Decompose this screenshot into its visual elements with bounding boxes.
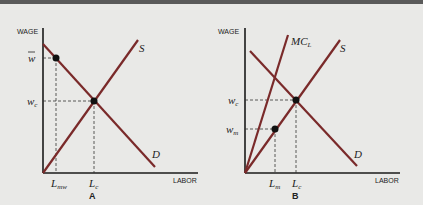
panel-b-competitive-point	[293, 97, 300, 104]
panel-b-y-axis-label: WAGE	[218, 28, 239, 35]
panel-a: WAGE LABOR S D w wc Lmw Lc A	[17, 28, 198, 201]
labor-market-diagrams: WAGE LABOR S D w wc Lmw Lc A WAGE LABOR	[0, 0, 423, 205]
panel-b: WAGE LABOR MCL S D wc wm Lm Lc B	[218, 28, 400, 201]
panel-b-mcl-label: MCL	[290, 35, 312, 49]
panel-b-x-axis-label: LABOR	[375, 177, 399, 184]
panel-b-demand-label: D	[353, 148, 362, 160]
panel-a-caption: A	[89, 191, 96, 201]
panel-a-lmw-label: Lmw	[50, 177, 67, 191]
panel-b-lc-label: Lc	[291, 177, 302, 191]
panel-b-caption: B	[292, 191, 299, 201]
panel-a-equilibrium-point	[91, 98, 98, 105]
panel-b-wm-label: wm	[226, 123, 238, 137]
panel-a-wc-label: wc	[27, 95, 38, 109]
panel-b-wc-label: wc	[228, 94, 239, 108]
panel-a-wbar-label: w	[28, 52, 36, 64]
panel-a-y-axis-label: WAGE	[17, 28, 38, 35]
panel-a-supply-label: S	[139, 42, 145, 54]
panel-a-lc-label: Lc	[88, 177, 99, 191]
panel-b-lm-label: Lm	[268, 177, 280, 191]
panel-b-supply-label: S	[340, 42, 346, 54]
panel-a-x-axis-label: LABOR	[173, 177, 197, 184]
panel-b-marginal-cost-curve	[245, 35, 288, 173]
panel-a-min-wage-point	[53, 55, 60, 62]
panel-b-monopsony-point	[272, 126, 279, 133]
panel-a-demand-label: D	[151, 148, 160, 160]
